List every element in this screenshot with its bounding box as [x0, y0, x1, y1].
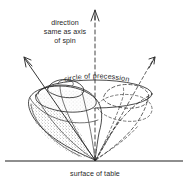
- ghost-top-meridian: [96, 86, 124, 160]
- circle-of-precession-label: circle of precession: [63, 71, 130, 83]
- ghost-axis-arrowhead: [149, 57, 155, 68]
- precession-diagram-svg: direction same as axis of spin circle of…: [0, 0, 188, 183]
- direction-label-line-1: direction: [51, 19, 79, 27]
- ghost-top-body-outline: [96, 94, 152, 160]
- figure-canvas: direction same as axis of spin circle of…: [0, 0, 188, 183]
- direction-label-line-3: of spin: [54, 37, 75, 45]
- solid-top-group: [20, 79, 110, 168]
- precession-axis-arrowhead: [91, 10, 99, 21]
- surface-of-table-label: surface of table: [70, 170, 120, 178]
- spin-axis-arrowhead: [24, 57, 32, 67]
- precession-axis-group: [91, 10, 99, 160]
- ghost-top-body-outline-2: [96, 96, 148, 160]
- direction-label-line-2: same as axis: [44, 28, 87, 36]
- circle-of-precession-textpath: circle of precession: [63, 71, 130, 83]
- pivot-point: [94, 159, 96, 161]
- ghost-top-lower-lobe: [96, 126, 138, 159]
